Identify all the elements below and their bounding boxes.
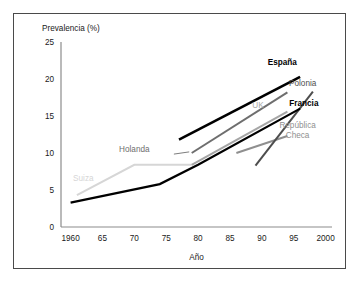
x-tick-label: 1960 xyxy=(61,234,80,243)
x-tick-label: 75 xyxy=(162,234,172,243)
x-axis-title: Año xyxy=(189,253,204,262)
x-tick-label: 65 xyxy=(98,234,108,243)
chart-figure-frame: 05101520251960657075808590952000Prevalen… xyxy=(13,13,346,269)
series-label-espa-a: España xyxy=(268,58,298,67)
chart-plot-area: 05101520251960657075808590952000Prevalen… xyxy=(14,14,347,270)
holanda-leader xyxy=(174,152,189,154)
series-label-francia: Francia xyxy=(289,99,319,108)
x-tick-label: 70 xyxy=(130,234,140,243)
series-label-suiza: Suiza xyxy=(73,174,94,183)
x-tick-label: 90 xyxy=(257,234,267,243)
x-tick-label: 95 xyxy=(289,234,299,243)
x-tick-label: 85 xyxy=(225,234,235,243)
y-tick-label: 5 xyxy=(49,186,54,195)
series-line-suiza xyxy=(77,165,192,195)
y-tick-label: 20 xyxy=(45,75,55,84)
series-line-uk xyxy=(192,112,288,165)
series-label-rep-blica-checa-line2: Checa xyxy=(286,131,310,140)
y-tick-label: 15 xyxy=(45,112,55,121)
y-tick-label: 25 xyxy=(45,38,55,47)
x-tick-label: 2000 xyxy=(316,234,335,243)
x-tick-label: 80 xyxy=(194,234,204,243)
y-tick-label: 0 xyxy=(49,223,54,232)
y-tick-label: 10 xyxy=(45,149,55,158)
series-label-polonia: Polonia xyxy=(289,79,317,88)
series-label-holanda: Holanda xyxy=(119,145,150,154)
prevalence-line-chart: 05101520251960657075808590952000Prevalen… xyxy=(14,14,347,270)
series-label-uk: UK xyxy=(252,101,264,110)
series-label-rep-blica-checa: República xyxy=(279,121,316,130)
y-axis-title: Prevalencia (%) xyxy=(42,24,100,33)
